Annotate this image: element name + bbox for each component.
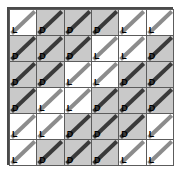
cell-label: L — [67, 77, 73, 87]
cell-label: L — [121, 155, 127, 165]
grid-cell-2-2[interactable]: D — [37, 36, 64, 62]
grid-cell-3-6[interactable]: D — [146, 62, 173, 88]
cell-label: D — [67, 129, 74, 139]
grid-row: DDLLDD — [10, 62, 174, 88]
cell-label: L — [121, 25, 127, 35]
grid-cell-2-3[interactable]: D — [64, 36, 91, 62]
grid-cell-4-1[interactable]: D — [10, 88, 37, 114]
grid-cell-6-1[interactable]: L — [10, 140, 37, 166]
cell-label: L — [149, 155, 155, 165]
cell-label: D — [94, 25, 101, 35]
grid-cell-3-1[interactable]: D — [10, 62, 37, 88]
cell-label: D — [39, 77, 46, 87]
grid-cell-4-5[interactable]: D — [119, 88, 146, 114]
grid-table: LDDDLLDDDLLDDDLLDDDLLDDDLLDDDLLDDDLL — [9, 9, 174, 166]
cell-label: L — [121, 51, 127, 61]
grid-cell-1-6[interactable]: L — [146, 10, 173, 36]
cell-label: D — [12, 77, 19, 87]
grid-cell-6-3[interactable]: D — [64, 140, 91, 166]
grid-cell-1-4[interactable]: D — [91, 10, 118, 36]
cell-label: L — [94, 77, 100, 87]
cell-label: D — [94, 129, 101, 139]
grid-row: LDDDLL — [10, 140, 174, 166]
grid-cell-3-4[interactable]: L — [91, 62, 118, 88]
grid-cell-1-1[interactable]: L — [10, 10, 37, 36]
grid-cell-2-6[interactable]: D — [146, 36, 173, 62]
grid-row: LLDDDL — [10, 114, 174, 140]
cell-label: D — [94, 103, 101, 113]
cell-label: D — [149, 103, 156, 113]
grid-cell-6-4[interactable]: D — [91, 140, 118, 166]
grid-cell-3-2[interactable]: D — [37, 62, 64, 88]
cell-label: D — [121, 77, 128, 87]
cell-label: D — [12, 103, 19, 113]
grid-cell-5-2[interactable]: L — [37, 114, 64, 140]
cell-label: L — [67, 103, 73, 113]
grid-cell-5-3[interactable]: D — [64, 114, 91, 140]
grid-cell-2-5[interactable]: L — [119, 36, 146, 62]
cell-label: D — [67, 25, 74, 35]
cell-label: L — [39, 103, 45, 113]
cell-label: L — [94, 51, 100, 61]
grid-cell-6-5[interactable]: L — [119, 140, 146, 166]
cell-label: D — [149, 77, 156, 87]
cell-label: D — [12, 51, 19, 61]
cell-label: D — [121, 129, 128, 139]
grid-cell-5-1[interactable]: L — [10, 114, 37, 140]
cell-label: L — [12, 25, 18, 35]
cell-label: L — [12, 129, 18, 139]
cell-label: L — [149, 25, 155, 35]
grid-cell-4-2[interactable]: L — [37, 88, 64, 114]
cell-label: D — [39, 155, 46, 165]
grid-cell-3-3[interactable]: L — [64, 62, 91, 88]
grid-cell-2-4[interactable]: L — [91, 36, 118, 62]
grid-cell-4-6[interactable]: D — [146, 88, 173, 114]
grid-body: LDDDLLDDDLLDDDLLDDDLLDDDLLDDDLLDDDLL — [10, 10, 174, 166]
cell-label: L — [39, 129, 45, 139]
cell-label: D — [149, 51, 156, 61]
grid-cell-1-5[interactable]: L — [119, 10, 146, 36]
grid-cell-5-6[interactable]: L — [146, 114, 173, 140]
grid-cell-4-4[interactable]: D — [91, 88, 118, 114]
grid-cell-5-4[interactable]: D — [91, 114, 118, 140]
grid-cell-5-5[interactable]: D — [119, 114, 146, 140]
cell-label: D — [67, 155, 74, 165]
grid-cell-1-2[interactable]: D — [37, 10, 64, 36]
grid-cell-6-6[interactable]: L — [146, 140, 173, 166]
grid-cell-1-3[interactable]: D — [64, 10, 91, 36]
grid-cell-2-1[interactable]: D — [10, 36, 37, 62]
cell-label: D — [67, 51, 74, 61]
grid-cell-6-2[interactable]: D — [37, 140, 64, 166]
cell-label: D — [94, 155, 101, 165]
grid-cell-3-5[interactable]: D — [119, 62, 146, 88]
cell-label: D — [39, 25, 46, 35]
grid-row: DDDLLD — [10, 36, 174, 62]
cell-label: L — [12, 155, 18, 165]
grid-row: LDDDLL — [10, 10, 174, 36]
grid-row: DLLDDD — [10, 88, 174, 114]
cell-label: D — [39, 51, 46, 61]
grid-cell-4-3[interactable]: L — [64, 88, 91, 114]
cell-label: L — [149, 129, 155, 139]
cell-label: D — [121, 103, 128, 113]
grid-diagram: LDDDLLDDDLLDDDLLDDDLLDDDLLDDDLLDDDLL — [7, 7, 173, 165]
